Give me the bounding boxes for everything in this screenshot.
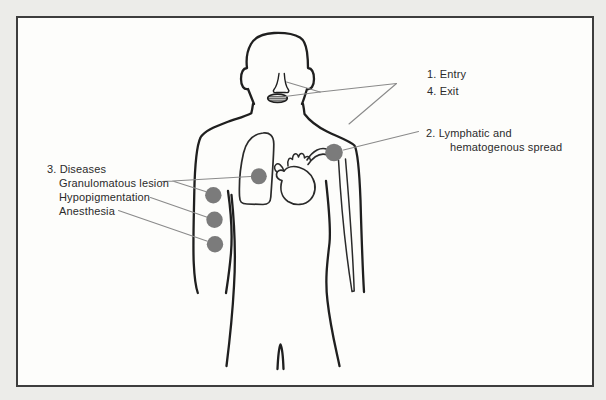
label-lymphatic-line1: 2. Lymphatic and xyxy=(426,126,562,140)
disease-item: Granulomatous lesion xyxy=(47,176,169,190)
label-entry-exit-group: 1. Entry 4. Exit xyxy=(427,66,466,100)
label-lymphatic-line2: hematogenous spread xyxy=(426,140,562,154)
label-lymphatic-spread: 2. Lymphatic and hematogenous spread xyxy=(426,126,562,154)
marker-lung-lesion xyxy=(251,168,267,184)
label-diseases-title: 3. Diseases xyxy=(47,162,169,176)
label-exit: 4. Exit xyxy=(427,83,466,100)
label-diseases-group: 3. Diseases Granulomatous lesion Hypopig… xyxy=(47,162,169,218)
disease-item: Anesthesia xyxy=(47,204,169,218)
marker-skin-lesion-3 xyxy=(207,236,223,252)
label-entry: 1. Entry xyxy=(427,66,466,83)
figure-page: 1. Entry 4. Exit 2. Lymphatic and hemato… xyxy=(0,0,606,400)
disease-item: Hypopigmentation xyxy=(47,190,169,204)
marker-skin-lesion-2 xyxy=(206,212,222,228)
marker-lymph-node xyxy=(325,144,343,162)
marker-skin-lesion-1 xyxy=(205,187,221,203)
